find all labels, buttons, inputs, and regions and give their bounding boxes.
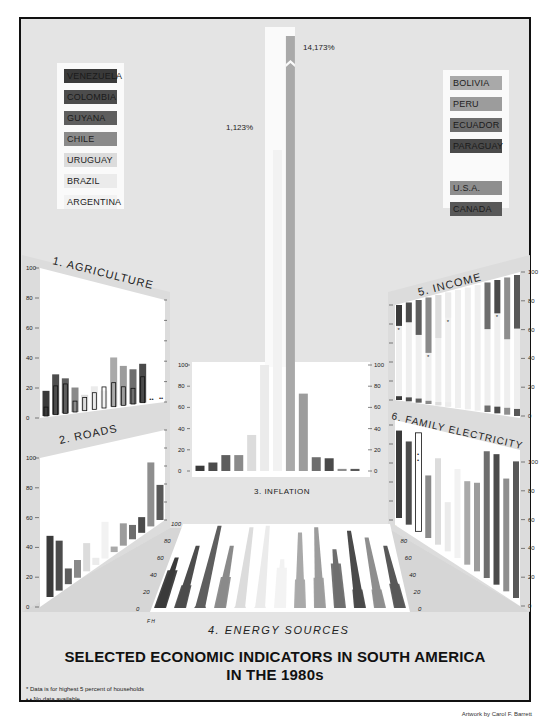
inflation-tick-left: 40 bbox=[178, 426, 185, 432]
roads-bar bbox=[56, 541, 63, 591]
agriculture-bar bbox=[130, 369, 137, 404]
energy-bar-h bbox=[194, 606, 206, 608]
electricity-tick-label: 80 bbox=[528, 488, 535, 494]
agriculture-tick-label: 80 bbox=[26, 295, 33, 301]
roads-bar bbox=[157, 485, 164, 520]
inflation-title: 3. INFLATION bbox=[254, 487, 310, 496]
agriculture-bar bbox=[101, 391, 108, 408]
inflation-bar bbox=[196, 466, 205, 471]
legend-item-usa: U.S.A. bbox=[450, 181, 502, 195]
inflation-tick-right: 40 bbox=[374, 426, 381, 432]
agriculture-bar bbox=[91, 386, 98, 409]
inflation-tick-left: 20 bbox=[178, 447, 185, 453]
title-line-1: SELECTED ECONOMIC INDICATORS IN SOUTH AM… bbox=[19, 648, 531, 666]
energy-bar-h bbox=[234, 606, 246, 608]
electricity-tick-label: 60 bbox=[528, 517, 535, 523]
roads-bar bbox=[74, 560, 81, 578]
electricity-bar bbox=[513, 461, 519, 598]
no-data-marker: •• bbox=[159, 395, 163, 401]
legend-item-brazil: BRAZIL bbox=[64, 174, 117, 188]
income-bar-bottom bbox=[426, 401, 432, 404]
inflation-tick-left: 80 bbox=[178, 383, 185, 389]
income-bar-top bbox=[416, 300, 422, 335]
legend-item-venezuela: VENEZUELA bbox=[64, 69, 117, 83]
electricity-bar bbox=[406, 441, 412, 524]
income-bar-bottom bbox=[445, 402, 451, 407]
agriculture-bar bbox=[139, 364, 146, 403]
energy-axis-fh: F H bbox=[147, 618, 155, 624]
energy-tick-right: 80 bbox=[400, 538, 407, 544]
roads-bar bbox=[47, 536, 54, 597]
electricity-tick-label: 40 bbox=[528, 545, 535, 551]
inflation-tick-right: 0 bbox=[374, 468, 378, 474]
inflation-tick-right: 60 bbox=[374, 404, 381, 410]
income-tick-label: 20 bbox=[528, 384, 535, 390]
inflation-tick-left: 60 bbox=[178, 404, 185, 410]
electricity-bar bbox=[425, 475, 431, 538]
inflation-bar bbox=[260, 365, 269, 471]
title-line-2: IN THE 1980s bbox=[19, 666, 531, 684]
energy-tick-right: 20 bbox=[413, 589, 421, 595]
inflation-tick-left: 0 bbox=[178, 468, 182, 474]
legend-left: VENEZUELACOLOMBIAGUYANACHILEURUGUAYBRAZI… bbox=[57, 63, 124, 209]
no-data-marker: •• bbox=[149, 396, 153, 402]
legend-right: BOLIVIAPERUECUADORPARAGUAYU.S.A.CANADA bbox=[443, 70, 509, 208]
energy-bar-h bbox=[254, 606, 266, 608]
inflation-callout-mid: 1,123% bbox=[226, 123, 253, 132]
inflation-bar bbox=[312, 457, 321, 471]
income-bar-bottom bbox=[504, 408, 510, 415]
income-tick-label: 100 bbox=[528, 269, 539, 275]
income-bar-bottom bbox=[485, 406, 491, 412]
agriculture-bar bbox=[52, 374, 59, 414]
agriculture-tick-label: 60 bbox=[26, 325, 33, 331]
income-tick-label: 80 bbox=[528, 298, 535, 304]
inflation-bar bbox=[299, 394, 308, 471]
note-no-data: • • No data available bbox=[26, 696, 80, 702]
legend-item-paraguay: PARAGUAY bbox=[450, 139, 502, 153]
electricity-bar bbox=[396, 431, 402, 518]
roads-bar bbox=[65, 568, 72, 584]
energy-tick-right: 60 bbox=[405, 555, 412, 561]
inflation-bar bbox=[221, 455, 230, 471]
income-tick-label: 0 bbox=[528, 413, 532, 419]
agriculture-bar bbox=[72, 388, 79, 412]
income-bar-top bbox=[494, 280, 500, 313]
electricity-bar bbox=[464, 481, 470, 564]
roads-tick-label: 40 bbox=[26, 544, 33, 550]
income-bar-bottom bbox=[435, 402, 441, 405]
energy-bar-h bbox=[294, 579, 306, 608]
roads-bar bbox=[102, 522, 109, 559]
energy-tick-left: 80 bbox=[164, 538, 171, 544]
roads-bar bbox=[129, 525, 136, 539]
inflation-bar bbox=[234, 455, 243, 471]
legend-item-colombia: COLOMBIA bbox=[64, 90, 117, 104]
agriculture-bar bbox=[43, 391, 50, 416]
roads-bar bbox=[138, 517, 145, 533]
income-bar-bg bbox=[465, 288, 471, 410]
income-bar-bottom bbox=[416, 399, 422, 403]
inflation-tick-right: 20 bbox=[374, 447, 381, 453]
inflation-bar bbox=[351, 469, 360, 471]
note-star: * Data is for highest 5 percent of house… bbox=[26, 686, 144, 692]
income-bar-bottom bbox=[494, 407, 500, 414]
income-bar-top bbox=[435, 295, 441, 338]
electricity-bar bbox=[435, 458, 441, 544]
income-bar-bottom bbox=[406, 397, 412, 401]
inflation-bar bbox=[247, 435, 256, 471]
agriculture-bar bbox=[120, 366, 127, 405]
agriculture-tick-label: 20 bbox=[26, 385, 33, 391]
electricity-bar bbox=[474, 483, 480, 572]
electricity-bar bbox=[455, 469, 461, 558]
poster: 0204060801001. AGRICULTURE••••0204060801… bbox=[0, 0, 554, 727]
legend-item-ecuador: ECUADOR bbox=[450, 118, 502, 132]
energy-tick-left: 40 bbox=[150, 572, 157, 578]
electricity-tick-label: 20 bbox=[528, 574, 535, 580]
income-bar-top bbox=[426, 298, 432, 353]
panel-inflation: 00202040406060808010010014,173%1,123%3. … bbox=[178, 27, 385, 496]
electricity-bar bbox=[484, 451, 490, 578]
main-title: SELECTED ECONOMIC INDICATORS IN SOUTH AM… bbox=[19, 648, 531, 684]
legend-item-chile: CHILE bbox=[64, 132, 117, 146]
roads-bar bbox=[83, 543, 90, 571]
artwork-credit: Artwork by Carol F. Barrett bbox=[462, 711, 532, 717]
inflation-bar bbox=[338, 469, 347, 471]
